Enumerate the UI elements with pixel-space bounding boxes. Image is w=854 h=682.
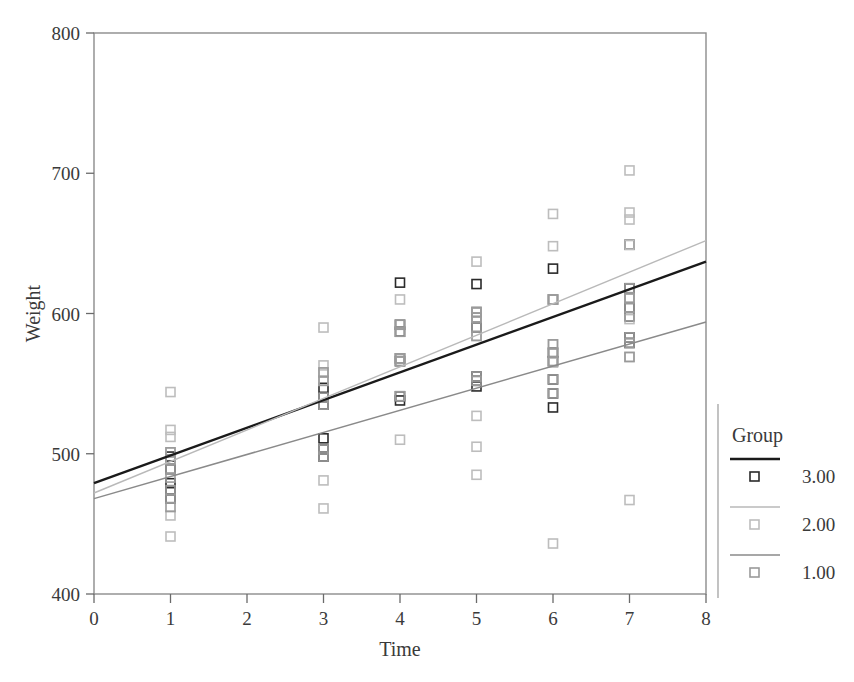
data-point-marker	[625, 294, 634, 303]
data-point-marker	[625, 352, 634, 361]
data-point-marker	[396, 354, 405, 363]
data-point-marker	[625, 240, 634, 249]
legend-entry-2-00[interactable]: 2.00	[730, 507, 835, 535]
x-axis-ticks: 012345678	[89, 594, 711, 629]
x-tick-label: 1	[166, 608, 176, 629]
data-point-marker	[549, 389, 558, 398]
x-tick-label: 8	[701, 608, 711, 629]
data-point-marker	[166, 388, 175, 397]
data-point-marker	[549, 389, 558, 398]
data-point-marker	[625, 333, 634, 342]
x-tick-label: 3	[319, 608, 329, 629]
data-point-marker	[472, 308, 481, 317]
data-point-marker	[396, 354, 405, 363]
y-tick-label: 500	[52, 444, 81, 465]
data-point-marker	[549, 539, 558, 548]
legend-entry-1-00[interactable]: 1.00	[730, 555, 835, 583]
data-point-marker	[549, 375, 558, 384]
data-point-marker	[549, 209, 558, 218]
data-point-marker	[472, 470, 481, 479]
x-tick-label: 5	[472, 608, 482, 629]
data-point-marker	[549, 403, 558, 412]
legend-entry-label: 2.00	[802, 514, 835, 535]
data-point-marker	[625, 333, 634, 342]
data-point-marker	[396, 278, 405, 287]
x-tick-label: 7	[625, 608, 635, 629]
data-point-marker	[625, 294, 634, 303]
data-point-marker	[625, 166, 634, 175]
data-point-marker	[549, 242, 558, 251]
x-tick-label: 4	[395, 608, 405, 629]
x-axis-title: Time	[379, 638, 421, 660]
data-point-marker	[549, 264, 558, 273]
data-point-marker	[472, 313, 481, 322]
y-tick-label: 700	[52, 163, 81, 184]
axis-titles: TimeWeight	[22, 284, 421, 660]
y-axis-title: Weight	[22, 284, 45, 342]
scatter-plot-with-fit-lines: 400500600700800 012345678 TimeWeight Gro…	[0, 0, 854, 682]
legend-entry-label: 1.00	[802, 562, 835, 583]
regression-fit-lines	[94, 241, 706, 499]
legend-title: Group	[732, 424, 783, 447]
y-axis-ticks: 400500600700800	[52, 23, 95, 605]
legend-marker-swatch	[750, 472, 759, 481]
legend-marker-swatch	[750, 520, 759, 529]
data-point-marker	[625, 352, 634, 361]
series-1-00	[166, 284, 634, 512]
legend-entry-label: 3.00	[802, 466, 835, 487]
data-point-markers	[166, 166, 634, 548]
data-point-marker	[396, 295, 405, 304]
data-point-marker	[549, 375, 558, 384]
data-point-marker	[472, 280, 481, 289]
data-point-marker	[472, 313, 481, 322]
data-point-marker	[396, 357, 405, 366]
data-point-marker	[472, 313, 481, 322]
fit-line-1-00	[94, 322, 706, 499]
plot-frame	[94, 33, 706, 594]
legend-marker-swatch	[750, 568, 759, 577]
x-tick-label: 0	[89, 608, 99, 629]
data-point-marker	[396, 357, 405, 366]
data-point-marker	[472, 308, 481, 317]
data-point-marker	[319, 476, 328, 485]
chart-figure: 400500600700800 012345678 TimeWeight Gro…	[0, 0, 854, 682]
data-point-marker	[319, 434, 328, 443]
data-point-marker	[166, 532, 175, 541]
legend-entry-3-00[interactable]: 3.00	[730, 459, 835, 487]
data-point-marker	[396, 354, 405, 363]
data-point-marker	[472, 257, 481, 266]
plot-border	[94, 33, 706, 594]
y-tick-label: 600	[52, 304, 81, 325]
x-tick-label: 6	[548, 608, 558, 629]
data-point-marker	[625, 240, 634, 249]
data-point-marker	[396, 357, 405, 366]
data-point-marker	[319, 323, 328, 332]
data-point-marker	[396, 435, 405, 444]
data-point-marker	[472, 411, 481, 420]
y-tick-label: 400	[52, 584, 81, 605]
y-tick-label: 800	[52, 23, 81, 44]
data-point-marker	[319, 504, 328, 513]
data-point-marker	[625, 294, 634, 303]
data-point-marker	[472, 308, 481, 317]
chart-legend: Group3.002.001.00	[718, 404, 835, 598]
data-point-marker	[472, 442, 481, 451]
data-point-marker	[625, 315, 634, 324]
data-point-marker	[625, 496, 634, 505]
x-tick-label: 2	[242, 608, 252, 629]
